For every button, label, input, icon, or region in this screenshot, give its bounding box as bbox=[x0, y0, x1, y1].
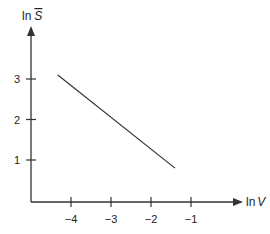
x-tick-label: −1 bbox=[185, 213, 198, 225]
y-tick-label: 1 bbox=[14, 154, 20, 166]
x-tick-label: −3 bbox=[105, 213, 118, 225]
x-tick-label: −2 bbox=[145, 213, 158, 225]
y-tick-label: 3 bbox=[14, 73, 20, 85]
x-tick-label: −4 bbox=[65, 213, 78, 225]
y-tick-label: 2 bbox=[14, 114, 20, 126]
x-axis-label: lnV bbox=[246, 195, 266, 209]
y-axis-label: lnS bbox=[22, 9, 42, 23]
chart: lnS lnV −4−3−2−1123 bbox=[0, 0, 270, 234]
data-series-line bbox=[58, 75, 175, 168]
